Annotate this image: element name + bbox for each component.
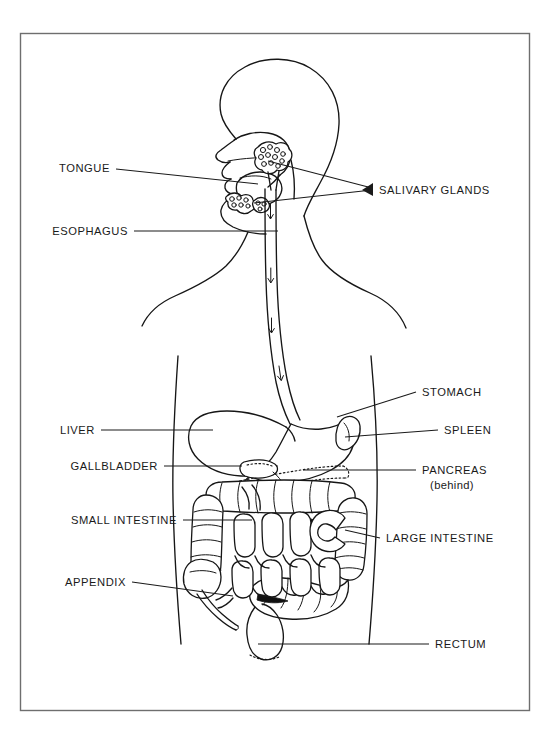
label-salivary-glands-text: SALIVARY GLANDS (379, 184, 490, 196)
esophagus-tube (265, 189, 300, 424)
label-rectum[interactable]: RECTUM (258, 638, 486, 650)
label-appendix-text: APPENDIX (65, 576, 126, 588)
leader-tongue (116, 169, 258, 184)
label-small-intestine[interactable]: SMALL INTESTINE (71, 514, 252, 526)
label-salivary-glands[interactable]: SALIVARY GLANDS (254, 161, 490, 203)
cecum (183, 559, 221, 598)
label-liver[interactable]: LIVER (60, 424, 213, 436)
leader-stomach (337, 392, 416, 417)
label-rectum-text: RECTUM (435, 638, 486, 650)
label-small-intestine-text: SMALL INTESTINE (71, 514, 177, 526)
label-large-intestine-text: LARGE INTESTINE (386, 532, 494, 544)
sublingual-salivary-gland (226, 193, 270, 214)
label-pancreas-text: PANCREAS (422, 464, 487, 476)
label-spleen[interactable]: SPLEEN (345, 424, 491, 437)
label-esophagus[interactable]: ESOPHAGUS (52, 225, 278, 237)
label-stomach[interactable]: STOMACH (337, 386, 482, 417)
label-esophagus-text: ESOPHAGUS (52, 225, 128, 237)
label-pancreas-subtext: (behind) (430, 479, 474, 491)
label-spleen-text: SPLEEN (444, 424, 491, 436)
label-tongue-text: TONGUE (59, 162, 110, 174)
transverse-colon (206, 480, 355, 513)
leader-salivary-glands-lower (254, 190, 372, 203)
spleen (336, 416, 360, 449)
label-gallbladder-text: GALLBLADDER (70, 460, 158, 472)
digestive-system-figure: Human Digestive System Line-art anatomic… (0, 0, 552, 740)
label-liver-text: LIVER (60, 424, 95, 436)
label-large-intestine[interactable]: LARGE INTESTINE (345, 530, 494, 544)
diagram-page: Human Digestive System Line-art anatomic… (0, 0, 552, 740)
label-tongue[interactable]: TONGUE (59, 162, 258, 184)
leader-salivary-glands-wedge (362, 183, 373, 196)
label-stomach-text: STOMACH (422, 386, 482, 398)
